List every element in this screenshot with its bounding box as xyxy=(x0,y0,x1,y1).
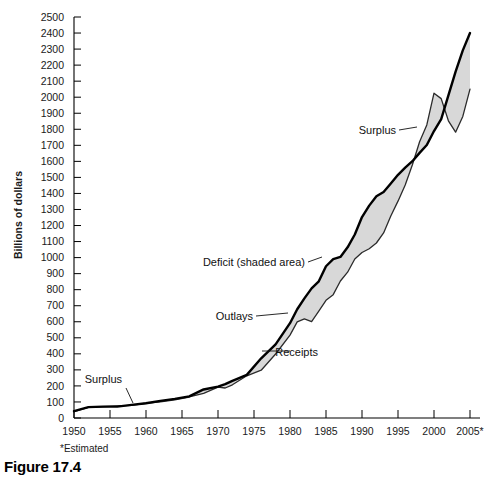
svg-text:200: 200 xyxy=(46,380,64,392)
svg-text:1700: 1700 xyxy=(41,139,65,151)
svg-text:2100: 2100 xyxy=(41,75,65,87)
svg-text:2500: 2500 xyxy=(41,11,65,23)
figure-caption: Figure 17.4 xyxy=(4,458,81,475)
svg-text:1980: 1980 xyxy=(278,425,302,437)
svg-text:1100: 1100 xyxy=(41,235,64,247)
svg-text:1400: 1400 xyxy=(41,187,65,199)
x-axis-tick-labels: 1950195519601965197019751980198519901995… xyxy=(62,425,483,437)
svg-text:2400: 2400 xyxy=(41,27,65,39)
deficit-surplus-shaded-areas xyxy=(74,33,470,412)
svg-text:1990: 1990 xyxy=(350,425,374,437)
annotation-surplus-late: Surplus xyxy=(359,124,397,136)
estimated-footnote: *Estimated xyxy=(60,443,108,454)
svg-text:2000: 2000 xyxy=(422,425,446,437)
annotation-leader-outlays xyxy=(256,313,288,316)
svg-text:1995: 1995 xyxy=(386,425,410,437)
svg-text:1300: 1300 xyxy=(41,203,65,215)
svg-text:1500: 1500 xyxy=(41,171,65,183)
svg-text:300: 300 xyxy=(46,363,64,375)
svg-text:2005*: 2005* xyxy=(456,425,483,437)
svg-text:1000: 1000 xyxy=(41,251,65,263)
svg-text:1800: 1800 xyxy=(41,123,65,135)
svg-text:400: 400 xyxy=(46,347,64,359)
figure-container: 0100200300400500600700800900100011001200… xyxy=(0,0,495,477)
chart-annotations: SurplusDeficit (shaded area)OutlaysRecei… xyxy=(85,124,417,403)
svg-text:100: 100 xyxy=(46,396,64,408)
annotation-outlays: Outlays xyxy=(216,310,254,322)
svg-text:900: 900 xyxy=(46,267,64,279)
budget-outlays-receipts-chart: 0100200300400500600700800900100011001200… xyxy=(0,0,495,477)
svg-text:2200: 2200 xyxy=(41,59,65,71)
y-axis-title: Billions of dollars xyxy=(12,171,24,259)
svg-text:2300: 2300 xyxy=(41,43,65,55)
svg-text:1965: 1965 xyxy=(170,425,194,437)
svg-text:600: 600 xyxy=(46,315,64,327)
svg-text:2000: 2000 xyxy=(41,91,65,103)
svg-text:800: 800 xyxy=(46,283,64,295)
annotation-leader-deficit xyxy=(308,257,322,262)
svg-text:1600: 1600 xyxy=(41,155,65,167)
svg-text:1975: 1975 xyxy=(242,425,266,437)
svg-text:1200: 1200 xyxy=(41,219,65,231)
svg-text:Billions of dollars: Billions of dollars xyxy=(12,171,24,259)
svg-text:1950: 1950 xyxy=(62,425,86,437)
svg-text:500: 500 xyxy=(46,331,64,343)
svg-text:1960: 1960 xyxy=(134,425,158,437)
svg-text:0: 0 xyxy=(58,412,64,424)
svg-text:1970: 1970 xyxy=(206,425,230,437)
annotation-surplus-early: Surplus xyxy=(85,373,123,385)
svg-text:1955: 1955 xyxy=(98,425,122,437)
y-axis-tick-labels: 0100200300400500600700800900100011001200… xyxy=(41,11,65,424)
receipts-line xyxy=(74,89,470,412)
svg-text:700: 700 xyxy=(46,299,64,311)
svg-text:1985: 1985 xyxy=(314,425,338,437)
annotation-deficit: Deficit (shaded area) xyxy=(203,256,305,268)
annotation-leader-surplus-late xyxy=(399,127,417,130)
svg-text:1900: 1900 xyxy=(41,107,65,119)
annotation-leader-surplus-early xyxy=(126,388,133,403)
annotation-receipts: Receipts xyxy=(275,346,318,358)
